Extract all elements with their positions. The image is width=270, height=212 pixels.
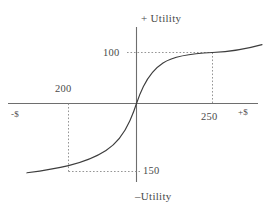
x-axis-negative-title: -$ <box>11 110 19 119</box>
y-tick-label-positive-100: 100 <box>103 48 119 59</box>
y-axis-negative-title: –Utility <box>135 191 172 202</box>
x-tick-label-positive-250: 250 <box>201 112 217 123</box>
x-tick-label-negative-200: 200 <box>55 84 71 95</box>
chart-canvas <box>0 0 270 212</box>
y-axis-positive-title: + Utility <box>141 13 181 24</box>
value-function-chart: + Utility –Utility -$ +$ 200 250 100 150 <box>0 0 270 212</box>
x-axis-positive-title: +$ <box>238 108 248 117</box>
y-tick-label-negative-150: 150 <box>143 166 159 177</box>
value-function-curve <box>27 45 262 173</box>
